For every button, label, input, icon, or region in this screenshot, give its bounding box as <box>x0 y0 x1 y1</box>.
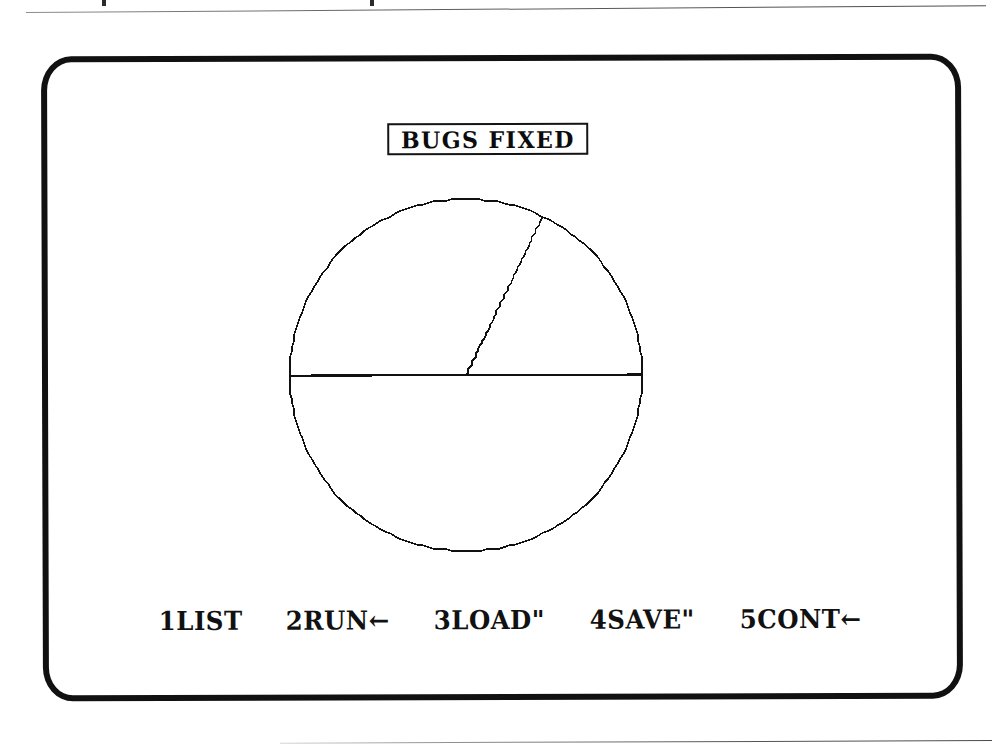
cropped-text-fragment <box>370 0 374 6</box>
chart-title: BUGS FIXED <box>401 127 575 151</box>
menu-item-save[interactable]: 4SAVE" <box>590 606 695 632</box>
pie-chart <box>283 193 648 558</box>
function-key-menu: 1LIST 2RUN← 3LOAD" 4SAVE" 5CONT← <box>49 606 957 635</box>
menu-item-load[interactable]: 3LOAD" <box>434 607 545 633</box>
chart-title-box: BUGS FIXED <box>387 123 588 156</box>
menu-item-cont[interactable]: 5CONT← <box>740 606 862 632</box>
pie-radius-2 <box>290 375 466 376</box>
cropped-text-fragment <box>102 0 106 6</box>
menu-item-run[interactable]: 2RUN← <box>285 607 389 633</box>
pie-radius-0 <box>466 375 642 376</box>
pie-chart-svg <box>283 193 648 558</box>
scanned-page: BUGS FIXED 1LIST 2RUN← 3LOAD" 4SAVE" 5CO… <box>0 0 1004 747</box>
tv-screen: BUGS FIXED 1LIST 2RUN← 3LOAD" 4SAVE" 5CO… <box>47 60 957 696</box>
pie-geometry <box>289 199 642 552</box>
page-rule-top <box>26 5 986 13</box>
tv-bezel: BUGS FIXED 1LIST 2RUN← 3LOAD" 4SAVE" 5CO… <box>41 54 963 702</box>
pie-radius-1 <box>465 217 543 375</box>
page-rule-bottom <box>280 740 992 744</box>
menu-item-list[interactable]: 1LIST <box>158 608 242 634</box>
